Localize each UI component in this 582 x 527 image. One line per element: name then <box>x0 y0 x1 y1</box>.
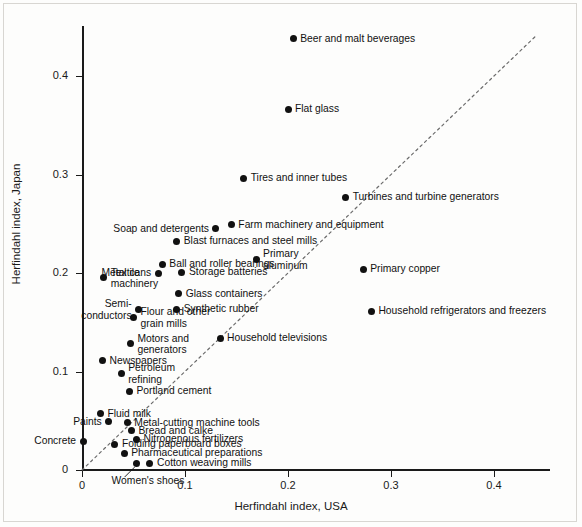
y-tick-mark <box>76 76 82 77</box>
x-tick-mark <box>82 471 83 477</box>
plot-area: 00.10.20.30.400.10.20.30.4 Beer and malt… <box>0 0 582 527</box>
x-axis-title: Herfindahl index, USA <box>0 500 582 512</box>
data-point[interactable] <box>159 261 166 268</box>
y-tick-label: 0.2 <box>22 267 68 278</box>
x-tick-mark <box>494 471 495 477</box>
data-point-label: Motors and generators <box>137 332 189 355</box>
data-point-label: Semi- conductors <box>81 298 131 321</box>
y-tick-label: 0 <box>22 464 68 475</box>
data-point[interactable] <box>240 175 247 182</box>
y-axis-line <box>82 26 84 471</box>
data-point[interactable] <box>80 438 87 445</box>
data-point-label: Turbines and turbine generators <box>353 191 499 203</box>
x-tick-label: 0.4 <box>474 480 514 491</box>
data-point[interactable] <box>173 238 180 245</box>
x-tick-mark <box>288 471 289 477</box>
x-axis-line <box>82 469 550 471</box>
y-tick-label: 0.3 <box>22 169 68 180</box>
data-point[interactable] <box>124 419 131 426</box>
scatter-plot-figure: 00.10.20.30.400.10.20.30.4 Beer and malt… <box>0 0 582 527</box>
data-point-label: Portland cement <box>136 385 211 397</box>
data-point-label: Tires and inner tubes <box>251 173 347 185</box>
data-point-label: Textile machinery <box>111 266 159 289</box>
data-point[interactable] <box>128 427 135 434</box>
data-point[interactable] <box>360 266 367 273</box>
data-point-label: Cotton weaving mills <box>157 457 251 469</box>
data-point-label: Blast furnaces and steel mills <box>184 236 317 248</box>
data-point-label: Soap and detergents <box>113 223 209 235</box>
data-point[interactable] <box>290 35 297 42</box>
data-point[interactable] <box>126 388 133 395</box>
data-point[interactable] <box>105 418 112 425</box>
data-point-label: Storage batteries <box>189 266 267 278</box>
y-tick-label: 0.4 <box>22 70 68 81</box>
data-point[interactable] <box>121 450 128 457</box>
data-point[interactable] <box>100 274 107 281</box>
data-point-label: Beer and malt beverages <box>300 33 415 45</box>
data-point[interactable] <box>175 290 182 297</box>
x-tick-label: 0.2 <box>268 480 308 491</box>
data-point[interactable] <box>118 370 125 377</box>
data-point[interactable] <box>285 106 292 113</box>
data-point[interactable] <box>212 225 219 232</box>
data-point[interactable] <box>342 194 349 201</box>
data-point-label: Household televisions <box>227 332 327 344</box>
data-point[interactable] <box>146 460 153 467</box>
y-tick-mark <box>76 175 82 176</box>
data-point[interactable] <box>130 314 137 321</box>
data-point[interactable] <box>111 441 118 448</box>
data-point[interactable] <box>228 221 235 228</box>
x-tick-mark <box>391 471 392 477</box>
data-point[interactable] <box>217 335 224 342</box>
y-axis-title: Herfindahl index, Japan <box>10 144 22 304</box>
data-point-label: Primary copper <box>370 263 440 275</box>
x-tick-label: 0 <box>62 480 102 491</box>
data-point[interactable] <box>178 269 185 276</box>
x-tick-mark <box>185 471 186 477</box>
y-tick-mark <box>76 372 82 373</box>
data-point-label: Farm machinery and equipment <box>238 219 383 231</box>
data-point-label: Glass containers <box>186 288 263 300</box>
data-point[interactable] <box>368 308 375 315</box>
y-tick-mark <box>76 273 82 274</box>
data-point[interactable] <box>127 340 134 347</box>
data-point-label: Concrete <box>34 436 76 448</box>
x-tick-label: 0.3 <box>371 480 411 491</box>
data-point-label: Women's shoes <box>112 475 185 487</box>
y-tick-label: 0.1 <box>22 366 68 377</box>
data-point[interactable] <box>133 460 140 467</box>
data-point-label: Flour and other grain mills <box>141 306 211 329</box>
data-point[interactable] <box>99 357 106 364</box>
data-point-label: Paints <box>73 416 102 428</box>
data-point-label: Petroleum refining <box>128 362 175 385</box>
data-point-label: Flat glass <box>295 104 339 116</box>
data-point-label: Household refrigerators and freezers <box>378 306 546 318</box>
